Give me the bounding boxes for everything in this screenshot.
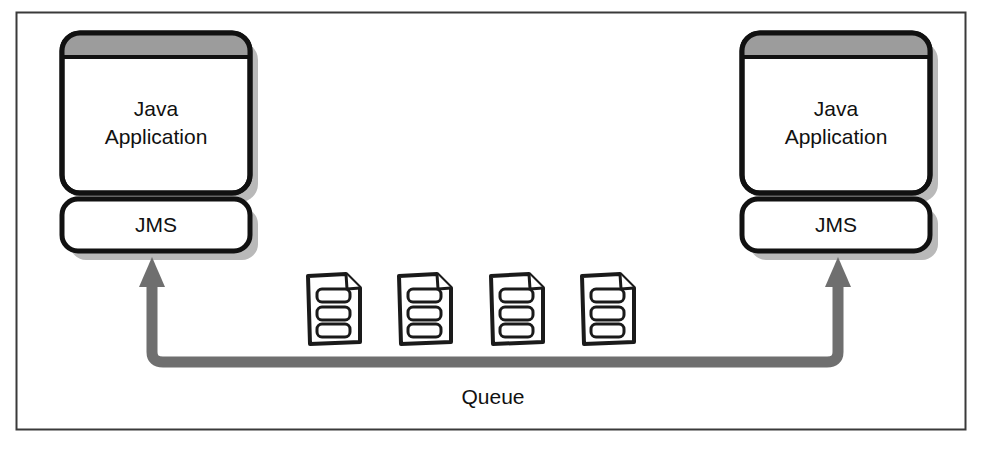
sender-jms-box[interactable]: JMS	[62, 199, 250, 251]
receiver-jms-label: JMS	[815, 213, 857, 236]
sender-app-label-line1: Java	[134, 97, 179, 120]
message-icon-4[interactable]	[582, 274, 634, 344]
jms-queue-diagram: Java Application JMS Java	[0, 0, 986, 452]
sender-jms-label: JMS	[135, 213, 177, 236]
diagram-canvas: Java Application JMS Java	[0, 0, 986, 452]
receiver-titlebar	[742, 33, 930, 57]
node-receiver[interactable]: Java Application JMS	[742, 33, 930, 251]
sender-titlebar	[62, 33, 250, 57]
message-icon-1[interactable]	[308, 274, 360, 344]
queue-label: Queue	[461, 385, 524, 408]
sender-application-box[interactable]: Java Application	[62, 33, 250, 193]
message-icon-3[interactable]	[491, 274, 543, 344]
receiver-app-label-line1: Java	[814, 97, 859, 120]
receiver-app-label-line2: Application	[785, 125, 888, 148]
sender-app-label-line2: Application	[105, 125, 208, 148]
message-icon-2[interactable]	[399, 274, 451, 344]
receiver-application-box[interactable]: Java Application	[742, 33, 930, 193]
receiver-jms-box[interactable]: JMS	[742, 199, 930, 251]
node-sender[interactable]: Java Application JMS	[62, 33, 250, 251]
